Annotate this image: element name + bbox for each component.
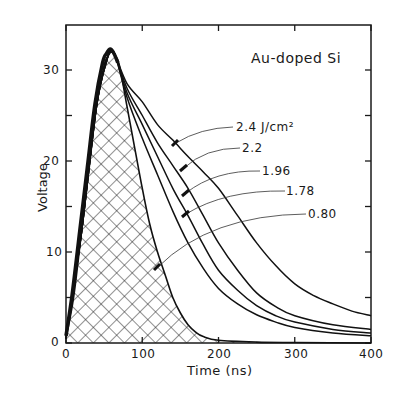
label-1.78: 1.78 (286, 184, 315, 198)
x-tick-100: 100 (131, 347, 155, 361)
label-0.80: 0.80 (308, 207, 337, 221)
x-axis-label: Time (ns) (187, 363, 253, 378)
chart-svg (0, 0, 402, 396)
y-axis-label: Voltage (35, 158, 50, 218)
label-1.96: 1.96 (262, 164, 291, 178)
x-tick-400: 400 (359, 347, 383, 361)
x-tick-200: 200 (207, 347, 231, 361)
label-2.4: 2.4 J/cm² (236, 120, 294, 134)
y-tick-30: 30 (43, 63, 59, 77)
y-tick-10: 10 (46, 245, 62, 259)
hatched-area-0.80 (66, 52, 371, 343)
label-2.2: 2.2 (242, 141, 263, 155)
chart-title: Au-doped Si (251, 50, 341, 66)
x-tick-300: 300 (284, 347, 308, 361)
y-tick-0: 0 (51, 335, 59, 349)
x-tick-0: 0 (62, 347, 70, 361)
